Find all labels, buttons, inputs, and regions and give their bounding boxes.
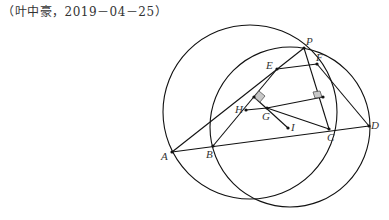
label-f: F: [315, 51, 323, 63]
label-g: G: [262, 110, 270, 122]
line-gc: [267, 108, 329, 129]
circle-bpd: [210, 47, 370, 207]
label-c: C: [327, 131, 335, 143]
label-a: A: [160, 150, 168, 162]
label-d: D: [370, 119, 379, 131]
line-ap: [172, 48, 304, 152]
circle-apc: [163, 25, 337, 199]
label-b: B: [206, 148, 213, 160]
label-i: I: [290, 121, 296, 133]
line-ad: [172, 126, 369, 152]
label-e: E: [265, 59, 273, 71]
geometry-diagram: P E F H G I A B C D: [0, 0, 389, 220]
label-h: H: [234, 103, 244, 115]
right-angle-marker-1: [254, 91, 265, 102]
label-p: P: [305, 35, 313, 47]
right-angle-marker-2: [313, 91, 322, 98]
line-g-perp: [267, 97, 323, 108]
